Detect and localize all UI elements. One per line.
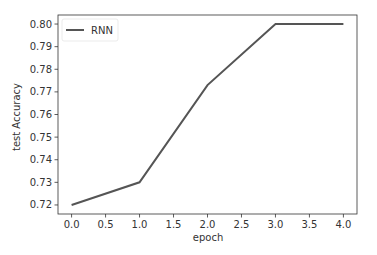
x-tick-label: 2.0	[200, 219, 216, 230]
y-tick-label: 0.72	[30, 199, 52, 210]
y-axis-label: test Accuracy	[11, 83, 22, 151]
x-axis-label: epoch	[193, 232, 223, 243]
x-tick-label: 0.0	[64, 219, 80, 230]
y-tick-label: 0.73	[30, 177, 52, 188]
plot-area: 0.00.51.01.52.02.53.03.54.00.720.730.740…	[30, 15, 357, 230]
x-tick-label: 0.5	[98, 219, 114, 230]
x-tick-label: 3.5	[301, 219, 317, 230]
legend-label: RNN	[91, 25, 113, 36]
x-tick-label: 1.5	[166, 219, 182, 230]
x-tick-label: 4.0	[335, 219, 351, 230]
y-tick-label: 0.79	[30, 41, 52, 52]
x-tick-label: 1.0	[132, 219, 148, 230]
x-tick-label: 3.0	[268, 219, 284, 230]
y-tick-label: 0.77	[30, 86, 52, 97]
axes-frame	[58, 15, 357, 214]
y-tick-label: 0.80	[30, 19, 52, 30]
series-line-rnn	[72, 24, 344, 205]
x-tick-label: 2.5	[234, 219, 250, 230]
y-tick-label: 0.78	[30, 64, 52, 75]
line-chart: 0.00.51.01.52.02.53.03.54.00.720.730.740…	[0, 0, 377, 255]
y-tick-label: 0.74	[30, 154, 52, 165]
y-tick-label: 0.75	[30, 132, 52, 143]
y-tick-label: 0.76	[30, 109, 52, 120]
